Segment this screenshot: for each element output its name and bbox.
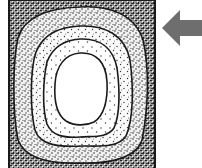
diagram-canvas [0,0,202,168]
core [55,53,107,125]
block [9,0,155,168]
arrow-left-icon [162,10,202,46]
